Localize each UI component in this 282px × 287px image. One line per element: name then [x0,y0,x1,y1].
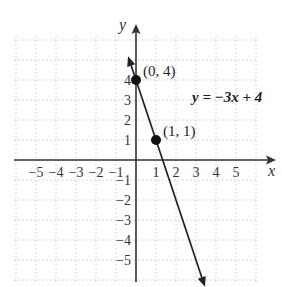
y-tick-label: −2 [116,193,131,208]
x-tick-label: 2 [173,165,180,180]
x-tick-label: −4 [49,165,64,180]
x-tick-label: 3 [193,165,200,180]
y-axis-label: y [117,16,127,34]
y-tick-label: −4 [116,233,131,248]
point-label: (1, 1) [163,123,196,140]
x-tick-label: −2 [89,165,104,180]
points: (0, 4)(1, 1) [131,63,196,145]
y-tick-label: 1 [124,133,131,148]
y-tick-label: −5 [116,253,131,268]
data-point [131,75,141,85]
y-tick-label: −1 [116,173,131,188]
y-tick-label: 4 [124,73,131,88]
x-tick-label: −5 [29,165,44,180]
y-tick-label: −3 [116,213,131,228]
equation-label: y = −3x + 4 [190,89,263,105]
x-tick-label: 4 [213,165,220,180]
x-tick-label: 1 [153,165,160,180]
point-label: (0, 4) [143,63,176,80]
y-tick-label: 2 [124,113,131,128]
data-point [151,135,161,145]
x-axis-label: x [267,162,275,179]
x-tick-label: 5 [233,165,240,180]
y-tick-label: 3 [124,93,131,108]
line-arrow-icon [127,56,135,67]
x-tick-label: −3 [69,165,84,180]
line-arrow-icon [198,276,206,287]
line-graph: −5−4−3−2−1123454321−1−2−3−4−5 x y (0, 4)… [0,0,282,287]
